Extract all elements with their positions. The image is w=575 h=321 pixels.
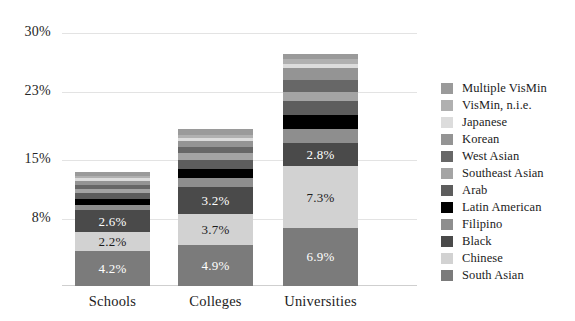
chart-legend: Multiple VisMinVisMin, n.i.e.JapaneseKor… (441, 80, 573, 284)
bar-segment[interactable] (283, 115, 358, 128)
legend-swatch-icon (441, 219, 453, 230)
legend-swatch-icon (441, 236, 453, 247)
legend-item[interactable]: Arab (441, 182, 573, 199)
legend-item-label: Black (462, 234, 492, 249)
x-axis-label-colleges: Colleges (161, 293, 271, 310)
legend-swatch-icon (441, 134, 453, 145)
segment-value-label: 7.3% (307, 191, 335, 204)
legend-swatch-icon (441, 270, 453, 281)
bar-segment[interactable] (178, 178, 253, 186)
bar-segment[interactable]: 4.9% (178, 245, 253, 286)
x-axis-label-universities: Universities (266, 293, 376, 310)
legend-swatch-icon (441, 83, 453, 94)
bar-segment[interactable]: 2.2% (75, 232, 150, 251)
legend-item[interactable]: Korean (441, 131, 573, 148)
legend-item-label: Korean (462, 132, 499, 147)
segment-value-label: 6.9% (307, 250, 335, 263)
legend-item[interactable]: Filipino (441, 216, 573, 233)
segment-value-label: 3.2% (202, 194, 230, 207)
segment-value-label: 2.6% (99, 215, 127, 228)
segment-value-label: 2.8% (307, 148, 335, 161)
bar-segment[interactable] (283, 92, 358, 100)
legend-item[interactable]: Multiple VisMin (441, 80, 573, 97)
bar-segment[interactable] (178, 169, 253, 178)
bar-segment[interactable]: 6.9% (283, 228, 358, 286)
legend-swatch-icon (441, 100, 453, 111)
legend-item-label: Latin American (462, 200, 542, 215)
legend-item[interactable]: Japanese (441, 114, 573, 131)
bar-segment[interactable] (283, 129, 358, 143)
stacked-bar-chart: 8%15%23%30% 4.2%2.2%2.6%4.9%3.7%3.2%6.9%… (0, 0, 575, 321)
legend-item-label: South Asian (462, 268, 524, 283)
y-axis-tick-label: 23% (3, 83, 51, 99)
legend-item[interactable]: Southeast Asian (441, 165, 573, 182)
bar-segment[interactable]: 3.2% (178, 187, 253, 214)
legend-item-label: VisMin, n.i.e. (462, 98, 532, 113)
bar-universities[interactable]: 6.9%7.3%2.8% (283, 54, 358, 286)
x-axis-label-schools: Schools (58, 293, 168, 310)
segment-value-label: 4.2% (99, 262, 127, 275)
legend-swatch-icon (441, 151, 453, 162)
legend-item-label: Southeast Asian (462, 166, 544, 181)
legend-item[interactable]: Latin American (441, 199, 573, 216)
bar-segment[interactable]: 4.2% (75, 251, 150, 286)
legend-item[interactable]: West Asian (441, 148, 573, 165)
legend-item-label: West Asian (462, 149, 519, 164)
bar-segment[interactable]: 2.6% (75, 210, 150, 232)
gridline (62, 33, 417, 34)
legend-item[interactable]: South Asian (441, 267, 573, 284)
bar-segment[interactable]: 7.3% (283, 166, 358, 227)
legend-swatch-icon (441, 168, 453, 179)
bar-segment[interactable] (178, 160, 253, 169)
legend-item[interactable]: VisMin, n.i.e. (441, 97, 573, 114)
legend-item-label: Chinese (462, 251, 503, 266)
gridline (62, 92, 417, 93)
y-axis-tick-label: 8% (3, 210, 51, 226)
legend-item-label: Multiple VisMin (462, 81, 547, 96)
legend-item-label: Arab (462, 183, 487, 198)
bar-segment[interactable] (283, 68, 358, 80)
bar-segment[interactable] (283, 80, 358, 93)
chart-title (0, 0, 575, 3)
legend-swatch-icon (441, 117, 453, 128)
bar-schools[interactable]: 4.2%2.2%2.6% (75, 172, 150, 286)
bar-segment[interactable] (283, 101, 358, 115)
segment-value-label: 4.9% (202, 259, 230, 272)
segment-value-label: 2.2% (99, 235, 127, 248)
legend-item[interactable]: Black (441, 233, 573, 250)
legend-item[interactable]: Chinese (441, 250, 573, 267)
legend-swatch-icon (441, 202, 453, 213)
segment-value-label: 3.7% (202, 223, 230, 236)
bar-segment[interactable]: 2.8% (283, 143, 358, 167)
bar-colleges[interactable]: 4.9%3.7%3.2% (178, 129, 253, 286)
legend-item-label: Filipino (462, 217, 502, 232)
bar-segment[interactable] (178, 153, 253, 160)
legend-swatch-icon (441, 185, 453, 196)
legend-swatch-icon (441, 253, 453, 264)
plot-area: 4.2%2.2%2.6%4.9%3.7%3.2%6.9%7.3%2.8% (62, 25, 417, 286)
legend-item-label: Japanese (462, 115, 507, 130)
y-axis-tick-label: 15% (3, 151, 51, 167)
y-axis-tick-label: 30% (3, 24, 51, 40)
bar-segment[interactable]: 3.7% (178, 214, 253, 245)
